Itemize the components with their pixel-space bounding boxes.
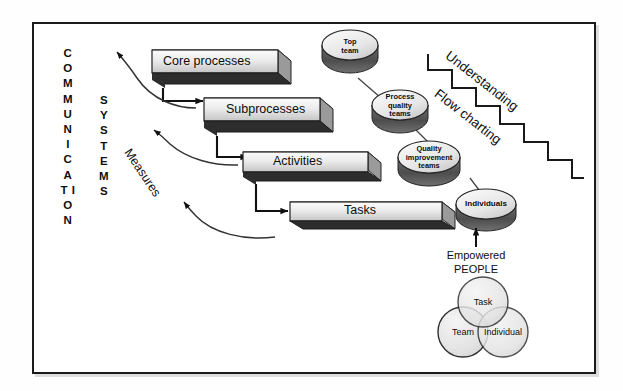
diagram-canvas: C O M M U N I C A T I O N S Y S T E M S	[0, 0, 623, 391]
cylinder-label-process-quality-teams: Process quality teams	[375, 93, 425, 119]
empowered-line1: Empowered	[447, 249, 506, 261]
venn-label-task: Task	[468, 297, 498, 307]
box-label-subprocesses: Subprocesses	[226, 102, 305, 116]
venn-label-individual: Individual	[479, 327, 527, 337]
diagram-frame	[32, 22, 596, 374]
box-label-tasks: Tasks	[344, 203, 376, 217]
label-communication: C O M M U N I C A T I O N	[60, 46, 76, 228]
label-systems: S Y S T E M S	[96, 93, 112, 199]
label-empowered-people: Empowered PEOPLE	[421, 249, 531, 276]
empowered-line2: PEOPLE	[454, 263, 498, 275]
cyl-line: teams	[418, 161, 439, 170]
venn-label-team: Team	[448, 327, 478, 337]
cyl-line: teams	[389, 109, 410, 118]
cylinder-label-quality-improvement-teams: Quality improvement teams	[395, 145, 463, 171]
cyl-line: team	[341, 46, 358, 55]
box-label-core-processes: Core processes	[163, 54, 251, 68]
cylinder-label-individuals: Individuals	[456, 200, 516, 209]
box-label-activities: Activities	[273, 154, 322, 168]
cylinder-label-top-team: Top team	[330, 38, 370, 55]
